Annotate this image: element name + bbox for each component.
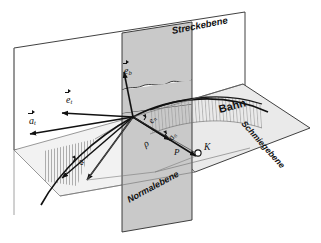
- diagram-vector-graphic: [0, 0, 321, 243]
- point-K-marker: [195, 150, 201, 156]
- point-P-marker: [132, 116, 135, 119]
- figure-canvas: Streckebene Normalebene Schmiegebene Bah…: [0, 0, 321, 243]
